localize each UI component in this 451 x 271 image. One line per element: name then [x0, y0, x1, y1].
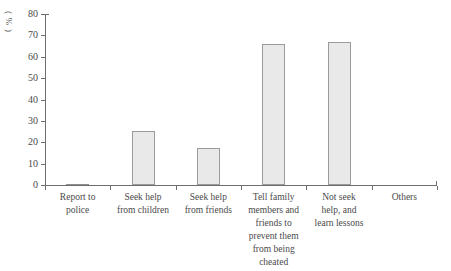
x-axis-tick	[241, 186, 242, 190]
plot-area	[45, 14, 437, 185]
y-axis-tick-label: 50	[14, 73, 38, 83]
y-axis-tick-label: 70	[14, 30, 38, 40]
x-axis-category-label-line: Seek help	[176, 191, 241, 204]
x-axis-tick	[45, 186, 46, 190]
x-axis-category-label: Seek helpfrom children	[110, 191, 175, 217]
x-axis-tick	[176, 186, 177, 190]
x-axis-category-label-line: from friends	[176, 204, 241, 217]
x-axis-category-label: Others	[372, 191, 437, 204]
y-axis-label-char-close: )	[4, 23, 13, 39]
y-axis-tick-label: 30	[14, 116, 38, 126]
y-axis-tick-label: 10	[14, 159, 38, 169]
x-axis-tick	[110, 186, 111, 190]
x-axis-category-label: Not seekhelp, andlearn lessons	[306, 191, 371, 230]
x-axis-category-label-line: prevent them	[241, 230, 306, 243]
x-axis-category-label-line: Others	[372, 191, 437, 204]
x-axis-category-label-line: members and	[241, 204, 306, 217]
x-axis-category-label-line: friends to	[241, 217, 306, 230]
y-axis-tick-label: 60	[14, 52, 38, 62]
x-axis-category-label-line: Tell family	[241, 191, 306, 204]
x-axis-category-label-line: police	[45, 204, 110, 217]
y-axis-tick-label: 40	[14, 95, 38, 105]
x-axis-tick	[306, 186, 307, 190]
x-axis-category-label-line: from being	[241, 243, 306, 256]
x-axis-category-label: Report topolice	[45, 191, 110, 217]
x-axis-category-label: Seek helpfrom friends	[176, 191, 241, 217]
x-axis-category-label-line: help, and	[306, 204, 371, 217]
x-axis-category-label-line: from children	[110, 204, 175, 217]
x-axis-category-label-line: cheated	[241, 256, 306, 269]
x-axis-category-label-line: Seek help	[110, 191, 175, 204]
bar	[132, 131, 155, 186]
y-axis-tick-label: 20	[14, 137, 38, 147]
y-axis-tick-label: 0	[14, 180, 38, 190]
bar	[197, 148, 220, 185]
x-axis-tick	[437, 186, 438, 190]
x-axis-category-label: Tell familymembers andfriends toprevent …	[241, 191, 306, 269]
x-axis-category-label-line: Not seek	[306, 191, 371, 204]
x-axis-tick	[372, 186, 373, 190]
bar	[262, 44, 285, 185]
bar	[328, 42, 351, 185]
x-axis-category-label-line: Report to	[45, 191, 110, 204]
x-axis-category-label-line: learn lessons	[306, 217, 371, 230]
bar	[66, 184, 89, 185]
y-axis-tick-label: 80	[14, 9, 38, 19]
bar-chart-figure: ( % ) 01020304050607080 Report topoliceS…	[0, 0, 451, 271]
